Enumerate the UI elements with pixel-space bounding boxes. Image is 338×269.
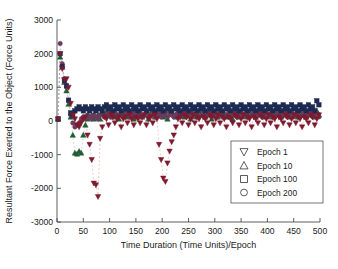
marker-square <box>87 109 91 113</box>
marker-square <box>134 105 138 109</box>
marker-triangle-down <box>224 125 229 130</box>
force-scatter-chart: -3000-2000-10000100020003000050100150200… <box>0 0 338 269</box>
marker-square <box>81 109 85 113</box>
marker-square <box>218 105 222 109</box>
marker-triangle-down <box>217 121 222 126</box>
marker-triangle-down <box>118 125 123 130</box>
marker-triangle-down <box>299 125 304 130</box>
y-tick-label: 0 <box>48 116 53 126</box>
marker-square <box>313 109 317 113</box>
marker-triangle-down <box>306 121 311 126</box>
marker-square <box>113 103 117 107</box>
marker-square <box>279 109 283 113</box>
marker-triangle-down <box>255 121 260 126</box>
marker-triangle-down <box>89 158 94 163</box>
marker-triangle-down <box>205 121 210 126</box>
x-tick-label: 200 <box>155 226 170 236</box>
marker-square <box>228 109 232 113</box>
marker-square <box>230 103 234 107</box>
marker-square <box>310 105 314 109</box>
x-axis-label: Time Duration (Time Units)/Epoch <box>121 240 256 250</box>
marker-square <box>256 103 260 107</box>
marker-triangle-down <box>156 142 161 147</box>
marker-square <box>155 103 159 107</box>
marker-square <box>151 105 155 109</box>
marker-square <box>243 105 247 109</box>
marker-square <box>268 105 272 109</box>
marker-triangle-down <box>171 133 176 138</box>
marker-triangle-down <box>230 121 235 126</box>
x-tick-label: 350 <box>234 226 249 236</box>
marker-square <box>315 99 319 103</box>
marker-square <box>188 103 192 107</box>
y-tick-label: -3000 <box>31 217 53 227</box>
marker-square <box>197 103 201 107</box>
marker-square <box>172 103 176 107</box>
x-tick-label: 400 <box>260 226 275 236</box>
marker-triangle-down <box>211 123 216 128</box>
marker-square <box>212 109 216 113</box>
marker-square <box>262 109 266 113</box>
legend-label-2: Epoch 100 <box>257 174 297 184</box>
legend: Epoch 1Epoch 10Epoch 100Epoch 200 <box>231 141 323 203</box>
y-tick-label: 2000 <box>34 49 53 59</box>
marker-square <box>100 109 104 113</box>
marker-triangle-down <box>192 121 197 126</box>
marker-square <box>273 103 277 107</box>
marker-triangle-down <box>144 123 149 128</box>
x-tick-label: 150 <box>129 226 144 236</box>
marker-triangle-down <box>100 125 105 130</box>
x-tick-label: 300 <box>208 226 223 236</box>
marker-square <box>304 109 308 113</box>
marker-square <box>264 103 268 107</box>
y-axis-label: Resultant Force Exerted to the Object (F… <box>4 18 14 223</box>
marker-square <box>146 103 150 107</box>
marker-square <box>138 103 142 107</box>
x-tick-label: 250 <box>181 226 196 236</box>
marker-square <box>169 109 173 113</box>
marker-square <box>136 109 140 113</box>
marker-triangle-up <box>70 132 75 137</box>
marker-square <box>193 105 197 109</box>
marker-square <box>111 109 115 113</box>
marker-square <box>195 109 199 113</box>
marker-triangle-down <box>95 195 100 200</box>
marker-square <box>317 103 321 107</box>
x-tick-label: 50 <box>79 226 89 236</box>
marker-triangle-up <box>83 122 88 127</box>
marker-circle <box>90 117 94 121</box>
marker-square <box>260 105 264 109</box>
marker-triangle-down <box>97 136 102 141</box>
marker-square <box>125 105 129 109</box>
marker-square <box>296 109 300 113</box>
marker-square <box>302 105 306 109</box>
marker-triangle-down <box>268 121 273 126</box>
marker-square <box>201 105 205 109</box>
marker-square <box>129 103 133 107</box>
chart-figure: -3000-2000-10000100020003000050100150200… <box>0 0 338 269</box>
marker-triangle-down <box>125 121 130 126</box>
marker-triangle-down <box>87 142 92 147</box>
marker-square <box>226 105 230 109</box>
marker-square <box>94 109 98 113</box>
marker-square <box>289 103 293 107</box>
marker-triangle-down <box>106 123 111 128</box>
marker-square <box>222 103 226 107</box>
marker-square <box>277 105 281 109</box>
marker-triangle-down <box>158 158 163 163</box>
marker-square <box>117 105 121 109</box>
y-tick-label: 1000 <box>34 82 53 92</box>
marker-triangle-down <box>243 121 248 126</box>
y-tick-label: -2000 <box>31 183 53 193</box>
series-markers-2 <box>56 51 321 121</box>
marker-triangle-down <box>186 123 191 128</box>
marker-square <box>180 103 184 107</box>
marker-square <box>161 109 165 113</box>
marker-square <box>167 105 171 109</box>
marker-circle <box>96 117 100 121</box>
marker-triangle-down <box>293 121 298 126</box>
marker-circle <box>58 41 62 45</box>
marker-square <box>220 109 224 113</box>
marker-square <box>214 103 218 107</box>
marker-square <box>239 103 243 107</box>
